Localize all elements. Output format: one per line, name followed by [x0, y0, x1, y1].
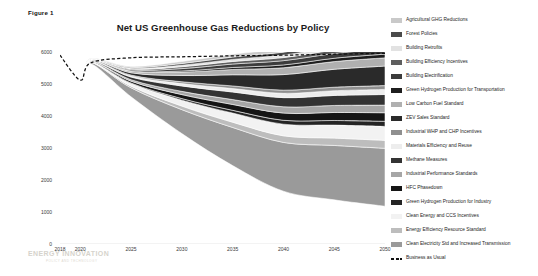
legend-item[interactable]: Energy Efficiency Resource Standard [391, 224, 537, 238]
legend-item-label: Clean Energy and CCS Incentives [406, 214, 479, 219]
legend-color-swatch [391, 186, 402, 191]
legend-color-swatch [391, 158, 402, 163]
y-axis-tick: 4000 [26, 113, 52, 119]
y-axis-tick: 1000 [26, 209, 52, 215]
legend-item[interactable]: Industrial WHP and CHP Incentives [391, 125, 537, 139]
y-axis-tick: 5000 [26, 81, 52, 87]
legend-item[interactable]: HFC Phasedown [391, 182, 537, 196]
legend-item[interactable]: Agricultural GHG Reductions [391, 13, 537, 27]
x-axis-tick: 2025 [126, 246, 137, 252]
legend-item-label: Green Hydrogen Production for Transporta… [406, 88, 505, 93]
legend-color-swatch [391, 144, 402, 149]
x-axis-tick: 2040 [278, 246, 289, 252]
y-axis-tick-labels: 0100020003000400050006000 [26, 52, 56, 244]
figure-label: Figure 1 [28, 9, 54, 16]
y-axis-tick: 6000 [26, 49, 52, 55]
legend-item-label: Methane Measures [406, 158, 447, 163]
legend-color-swatch [391, 214, 402, 219]
legend-color-swatch [391, 242, 402, 247]
legend-item[interactable]: ZEV Sales Standard [391, 111, 537, 125]
legend-color-swatch [391, 102, 402, 107]
chart-title: Net US Greenhouse Gas Reductions by Poli… [88, 22, 358, 33]
x-axis-tick: 2035 [227, 246, 238, 252]
legend-item-label: Green Hydrogen Production for Industry [406, 200, 491, 205]
y-axis-tick: 2000 [26, 177, 52, 183]
legend-item-label: Building Electrification [406, 74, 453, 79]
legend-item-label: Building Retrofits [406, 46, 442, 51]
legend-color-swatch [391, 116, 402, 121]
legend-color-swatch [391, 88, 402, 93]
legend-color-swatch [391, 60, 402, 65]
legend-item-label: Energy Efficiency Resource Standard [406, 228, 486, 233]
legend-item-label: Building Efficiency Incentives [406, 60, 468, 65]
legend-item-label: ZEV Sales Standard [406, 116, 450, 121]
y-axis-tick: 3000 [26, 145, 52, 151]
legend-item[interactable]: Clean Energy and CCS Incentives [391, 210, 537, 224]
legend-color-swatch [391, 46, 402, 51]
legend-item[interactable]: Green Hydrogen Production for Industry [391, 196, 537, 210]
legend-item[interactable]: Building Electrification [391, 69, 537, 83]
legend-color-swatch [391, 200, 402, 205]
plot-area [60, 52, 385, 244]
legend-item[interactable]: Building Retrofits [391, 41, 537, 55]
legend-color-swatch [391, 18, 402, 23]
legend-color-swatch [391, 228, 402, 233]
x-axis-tick: 2030 [176, 246, 187, 252]
legend-item-label: Business as Usual [406, 256, 446, 261]
legend-dashed-line-icon [391, 256, 402, 261]
legend-item-label: Agricultural GHG Reductions [406, 18, 468, 23]
legend-item-label: HFC Phasedown [406, 186, 442, 191]
watermark-logo: ENERGY INNOVATION [28, 250, 109, 257]
legend-item[interactable]: Green Hydrogen Production for Transporta… [391, 83, 537, 97]
legend-item[interactable]: Building Efficiency Incentives [391, 55, 537, 69]
legend-color-swatch [391, 172, 402, 177]
legend-item-label: Low Carbon Fuel Standard [406, 102, 463, 107]
legend-item-label: Materials Efficiency and Reuse [406, 144, 472, 149]
stacked-area-chart [60, 52, 385, 244]
legend-item[interactable]: Forest Policies [391, 27, 537, 41]
legend-item-label: Industrial Performance Standards [406, 172, 478, 177]
legend-item[interactable]: Low Carbon Fuel Standard [391, 97, 537, 111]
chart-legend: Agricultural GHG ReductionsForest Polici… [391, 13, 537, 266]
legend-item-label: Clean Electricity Std and Increased Tran… [406, 242, 510, 247]
legend-item[interactable]: Materials Efficiency and Reuse [391, 139, 537, 153]
legend-color-swatch [391, 32, 402, 37]
legend-item-label: Industrial WHP and CHP Incentives [406, 130, 482, 135]
x-axis-tick: 2050 [379, 246, 390, 252]
y-axis-tick: 0 [26, 241, 52, 247]
legend-item-label: Forest Policies [406, 32, 437, 37]
legend-color-swatch [391, 74, 402, 79]
legend-item[interactable]: Business as Usual [391, 252, 537, 266]
watermark-sublogo: POLICY AND TECHNOLOGY [46, 259, 97, 263]
figure-root: Figure 1 Net US Greenhouse Gas Reduction… [0, 0, 538, 276]
legend-item[interactable]: Industrial Performance Standards [391, 168, 537, 182]
legend-item[interactable]: Clean Electricity Std and Increased Tran… [391, 238, 537, 252]
legend-color-swatch [391, 130, 402, 135]
x-axis-tick: 2045 [329, 246, 340, 252]
legend-item[interactable]: Methane Measures [391, 153, 537, 167]
